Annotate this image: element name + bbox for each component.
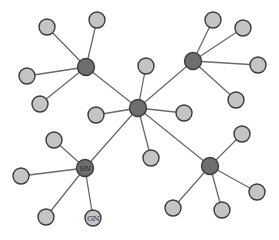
leaf-node-circle	[143, 150, 159, 166]
diagram-background	[0, 0, 279, 240]
leaf-node-circle	[214, 202, 230, 218]
leaf-node-l1	[39, 19, 55, 35]
leaf-node-circle	[32, 96, 48, 112]
leaf-node-circle	[235, 20, 251, 36]
leaf-node-circle	[228, 92, 244, 108]
leaf-node-l4	[32, 96, 48, 112]
hub-node-circle	[78, 59, 95, 76]
leaf-node-l11	[176, 105, 192, 121]
node-label-sn: SN	[79, 164, 91, 173]
leaf-node-l10	[88, 107, 104, 123]
leaf-node-l6	[235, 20, 251, 36]
hub-node-circle	[202, 158, 219, 175]
hub-node-h3: SN	[77, 160, 94, 177]
leaf-node-l18	[249, 184, 265, 200]
leaf-node-circle	[234, 126, 250, 142]
leaf-node-circle	[46, 132, 62, 148]
leaf-node-l8	[228, 92, 244, 108]
leaf-node-l13	[46, 132, 62, 148]
hub-node-circle	[185, 53, 202, 70]
leaf-node-circle	[89, 12, 105, 28]
network-diagram: SNGN	[0, 0, 279, 240]
leaf-node-circle	[138, 58, 154, 74]
leaf-node-l12	[143, 150, 159, 166]
leaf-node-circle	[250, 57, 266, 73]
leaf-node-l20	[214, 202, 230, 218]
leaf-node-circle	[249, 184, 265, 200]
leaf-node-l2	[89, 12, 105, 28]
hub-node-circle	[130, 100, 147, 117]
leaf-node-circle	[38, 209, 54, 225]
hub-node-h4	[202, 158, 219, 175]
leaf-node-circle	[13, 168, 29, 184]
leaf-node-l3	[19, 68, 35, 84]
hub-node-h1	[78, 59, 95, 76]
leaf-node-l7	[250, 57, 266, 73]
hub-node-c	[130, 100, 147, 117]
leaf-node-l19	[165, 200, 181, 216]
leaf-node-l17	[234, 126, 250, 142]
leaf-node-l15	[38, 209, 54, 225]
leaf-node-l9	[138, 58, 154, 74]
leaf-node-circle	[88, 107, 104, 123]
leaf-node-circle	[205, 12, 221, 28]
leaf-node-circle	[176, 105, 192, 121]
leaf-node-circle	[165, 200, 181, 216]
leaf-node-l5	[205, 12, 221, 28]
leaf-node-l14	[13, 168, 29, 184]
hub-node-h2	[185, 53, 202, 70]
leaf-node-circle	[39, 19, 55, 35]
leaf-node-circle	[19, 68, 35, 84]
leaf-node-l16: GN	[85, 210, 101, 226]
node-label-gn: GN	[87, 214, 100, 223]
network-diagram-canvas: SNGN	[0, 0, 279, 240]
